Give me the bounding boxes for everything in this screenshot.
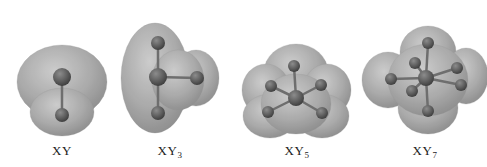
- ligand-atom: [422, 37, 434, 49]
- label-xy: XY: [52, 143, 72, 159]
- label-xy7: XY7: [413, 143, 438, 159]
- ligand-atom: [406, 85, 418, 97]
- central-atom: [53, 68, 71, 86]
- central-atom: [418, 70, 434, 86]
- ligand-atom: [190, 71, 204, 85]
- ligand-atom: [262, 106, 274, 118]
- ligand-atom: [315, 79, 327, 91]
- formula-base: XY: [158, 143, 178, 158]
- ligand-atom: [265, 80, 277, 92]
- molecule-xy3: [121, 23, 219, 133]
- ligand-atom: [316, 107, 328, 119]
- formula-subscript: 7: [432, 150, 437, 160]
- central-atom: [288, 90, 304, 106]
- formula-subscript: 5: [304, 150, 309, 160]
- ligand-atom: [151, 106, 165, 120]
- label-xy5: XY5: [285, 143, 310, 159]
- molecule-xy7: [362, 26, 487, 134]
- label-xy3: XY3: [158, 143, 183, 159]
- ligand-atom: [422, 105, 434, 117]
- ligand-atom: [151, 36, 165, 50]
- molecule-xy: [17, 45, 107, 136]
- ligand-atom: [409, 57, 421, 69]
- central-atom: [149, 68, 167, 86]
- molecule-xy5: [242, 44, 351, 138]
- ligand-atom: [385, 73, 397, 85]
- molecule-diagram: [0, 0, 487, 167]
- formula-base: XY: [413, 143, 433, 158]
- formula-base: XY: [52, 143, 72, 158]
- ligand-atom: [288, 60, 300, 72]
- formula-base: XY: [285, 143, 305, 158]
- ligand-atom: [455, 79, 467, 91]
- ligand-atom: [55, 108, 69, 122]
- formula-subscript: 3: [177, 150, 182, 160]
- ligand-atom: [451, 62, 463, 74]
